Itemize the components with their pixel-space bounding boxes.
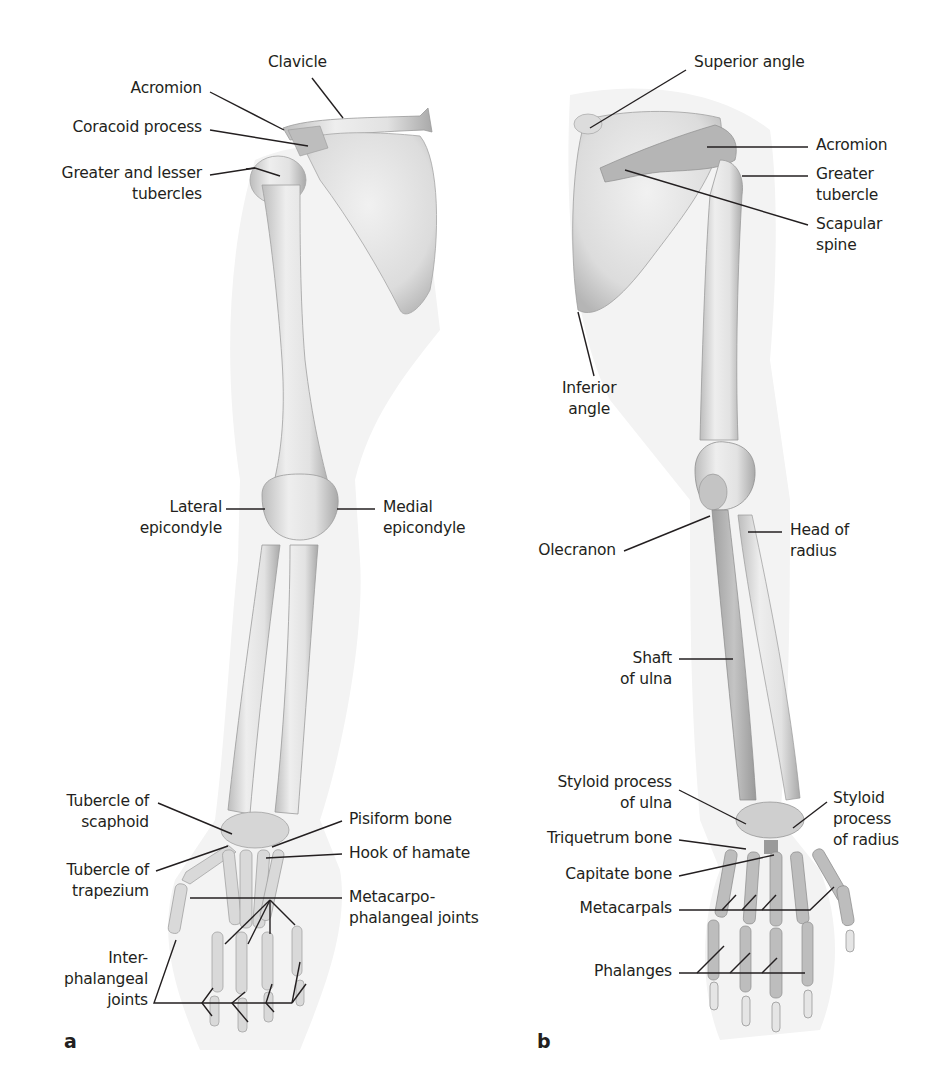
- label-acromion-b: Acromion: [816, 135, 887, 156]
- label-metacarpophalangeal-joints: Metacarpo- phalangeal joints: [349, 887, 479, 929]
- label-triquetrum-bone: Triquetrum bone: [547, 828, 672, 849]
- panel-letter-b: b: [537, 1030, 551, 1052]
- label-pisiform-bone: Pisiform bone: [349, 809, 452, 830]
- label-coracoid-process: Coracoid process: [72, 117, 202, 138]
- label-greater-lesser-tubercles: Greater and lesser tubercles: [62, 163, 202, 205]
- label-tubercle-of-scaphoid: Tubercle of scaphoid: [67, 791, 149, 833]
- label-acromion-a: Acromion: [131, 78, 202, 99]
- label-hook-of-hamate: Hook of hamate: [349, 843, 470, 864]
- label-inferior-angle: Inferior angle: [562, 378, 616, 420]
- label-tubercle-of-trapezium: Tubercle of trapezium: [67, 860, 149, 902]
- label-styloid-process-radius: Styloid process of radius: [833, 788, 899, 851]
- label-medial-epicondyle: Medial epicondyle: [383, 497, 465, 539]
- panel-letter-a: a: [64, 1030, 77, 1052]
- label-phalanges: Phalanges: [594, 961, 672, 982]
- label-scapular-spine: Scapular spine: [816, 214, 882, 256]
- label-styloid-process-ulna: Styloid process of ulna: [557, 772, 672, 814]
- label-interphalangeal-joints: Inter- phalangeal joints: [64, 948, 148, 1011]
- label-lateral-epicondyle: Lateral epicondyle: [140, 497, 222, 539]
- label-head-of-radius: Head of radius: [790, 520, 849, 562]
- label-capitate-bone: Capitate bone: [565, 864, 672, 885]
- label-clavicle: Clavicle: [268, 52, 327, 73]
- label-shaft-of-ulna: Shaft of ulna: [620, 648, 672, 690]
- label-metacarpals: Metacarpals: [580, 898, 672, 919]
- upper-limb-skeleton-figure: Clavicle Acromion Coracoid process Great…: [0, 0, 948, 1086]
- label-superior-angle: Superior angle: [694, 52, 805, 73]
- label-greater-tubercle: Greater tubercle: [816, 164, 878, 206]
- label-olecranon: Olecranon: [538, 540, 616, 561]
